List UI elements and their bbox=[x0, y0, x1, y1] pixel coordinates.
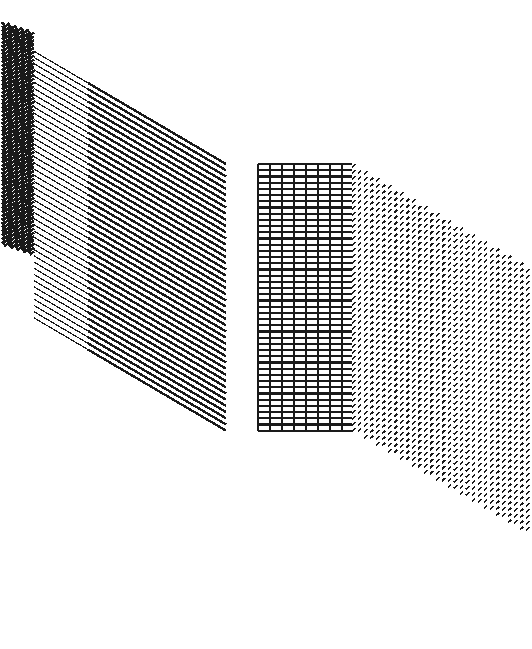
hatch-dash bbox=[382, 293, 385, 296]
hatch-dash bbox=[376, 292, 379, 295]
hatch-dash bbox=[520, 521, 523, 524]
hatch-dash bbox=[382, 431, 385, 434]
hatch-dash bbox=[526, 383, 529, 386]
fine-diagonal-stroke bbox=[34, 64, 88, 96]
hatch-dash bbox=[454, 269, 457, 272]
hatch-dash bbox=[376, 214, 379, 217]
hatch-dash bbox=[454, 479, 457, 482]
fine-diagonal-stroke bbox=[34, 225, 88, 257]
hatch-dash bbox=[406, 271, 409, 274]
hatch-dash bbox=[364, 405, 367, 408]
hatch-dash bbox=[466, 270, 469, 273]
hatch-dash bbox=[442, 364, 445, 367]
hatch-dash bbox=[508, 418, 511, 421]
hatch-dash bbox=[448, 382, 451, 385]
hatch-dash bbox=[448, 262, 451, 265]
hatch-dash bbox=[376, 334, 379, 337]
hatch-dash bbox=[430, 255, 433, 258]
hatch-dash bbox=[436, 477, 439, 480]
fine-diagonal-stroke bbox=[34, 250, 88, 282]
hatch-dash bbox=[448, 268, 451, 271]
hatch-dash bbox=[358, 405, 361, 408]
hatch-dash bbox=[490, 368, 493, 371]
hatch-dash bbox=[436, 309, 439, 312]
hatch-dash bbox=[376, 238, 379, 241]
hatch-dash bbox=[484, 350, 487, 353]
hatch-dash bbox=[502, 297, 505, 300]
hatch-dash bbox=[364, 225, 367, 228]
hatch-dash bbox=[388, 287, 391, 290]
hatch-dash bbox=[442, 358, 445, 361]
hatch-dash bbox=[466, 336, 469, 339]
hatch-dash bbox=[400, 240, 403, 243]
hatch-dash bbox=[520, 311, 523, 314]
hatch-dash bbox=[472, 253, 475, 256]
hatch-dash bbox=[382, 425, 385, 428]
hatch-dash bbox=[496, 483, 499, 486]
hatch-dash bbox=[388, 317, 391, 320]
hatch-dash bbox=[388, 425, 391, 428]
hatch-dash bbox=[400, 264, 403, 267]
hatch-dash bbox=[472, 421, 475, 424]
hatch-dash bbox=[484, 290, 487, 293]
hatch-dash bbox=[358, 411, 361, 414]
hatch-dash bbox=[484, 272, 487, 275]
hatch-dash bbox=[466, 456, 469, 459]
hatch-dash bbox=[400, 234, 403, 237]
hatch-dash bbox=[520, 359, 523, 362]
hatch-dash bbox=[382, 317, 385, 320]
hatch-dash bbox=[508, 472, 511, 475]
hatch-dash bbox=[508, 334, 511, 337]
hatch-dash bbox=[430, 309, 433, 312]
hatch-dash bbox=[466, 444, 469, 447]
hatch-dash bbox=[448, 400, 451, 403]
hatch-dash bbox=[436, 261, 439, 264]
hatch-dash bbox=[514, 304, 517, 307]
hatch-dash bbox=[448, 244, 451, 247]
hatch-dash bbox=[352, 392, 355, 395]
hatch-dash bbox=[400, 360, 403, 363]
hatch-dash bbox=[394, 282, 397, 285]
hatch-dash bbox=[502, 303, 505, 306]
hatch-dash bbox=[502, 405, 505, 408]
hatch-dash bbox=[376, 244, 379, 247]
hatch-dash bbox=[412, 277, 415, 280]
hatch-dash bbox=[520, 401, 523, 404]
hatch-dash bbox=[370, 328, 373, 331]
hatch-dash bbox=[352, 284, 355, 287]
hatch-dash bbox=[382, 197, 385, 200]
hatch-dash bbox=[370, 424, 373, 427]
hatch-dash bbox=[382, 407, 385, 410]
hatch-dash bbox=[514, 400, 517, 403]
hatch-dash bbox=[484, 266, 487, 269]
hatch-dash bbox=[508, 382, 511, 385]
hatch-dash bbox=[352, 254, 355, 257]
hatch-dash bbox=[454, 347, 457, 350]
hatch-dash bbox=[460, 383, 463, 386]
hatch-dash bbox=[388, 305, 391, 308]
hatch-dash bbox=[496, 393, 499, 396]
hatch-dash bbox=[460, 401, 463, 404]
hatch-dash bbox=[502, 273, 505, 276]
hatch-dash bbox=[514, 496, 517, 499]
hatch-dash bbox=[448, 370, 451, 373]
hatch-dash bbox=[400, 300, 403, 303]
hatch-dash bbox=[460, 263, 463, 266]
hatch-dash bbox=[394, 378, 397, 381]
hatch-dash bbox=[526, 497, 529, 500]
hatch-dash bbox=[520, 377, 523, 380]
hatch-dash bbox=[388, 437, 391, 440]
hatch-dash bbox=[418, 344, 421, 347]
hatch-dash bbox=[448, 328, 451, 331]
hatch-dash bbox=[448, 454, 451, 457]
hatch-dash bbox=[382, 221, 385, 224]
hatch-dash bbox=[406, 301, 409, 304]
hatch-dash bbox=[430, 249, 433, 252]
hatch-dash bbox=[400, 450, 403, 453]
hatch-dash bbox=[472, 355, 475, 358]
hatch-dash bbox=[424, 326, 427, 329]
hatch-dash bbox=[364, 417, 367, 420]
hatch-dash bbox=[526, 461, 529, 464]
hatch-dash bbox=[436, 471, 439, 474]
hatch-dash bbox=[514, 358, 517, 361]
